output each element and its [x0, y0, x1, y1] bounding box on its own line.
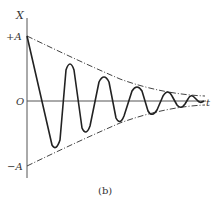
- oscillation-curve: [27, 36, 204, 148]
- origin-label: O: [16, 96, 24, 107]
- minus-amplitude-label: −A: [7, 161, 23, 172]
- x-axis-label: t: [206, 97, 211, 108]
- upper-envelope: [27, 36, 205, 96]
- plus-amplitude-label: +A: [6, 31, 22, 42]
- y-axis-label: X: [15, 9, 25, 22]
- figure-caption: (b): [98, 185, 112, 196]
- damped-oscillation-figure: X +A O −A t (b): [0, 0, 217, 199]
